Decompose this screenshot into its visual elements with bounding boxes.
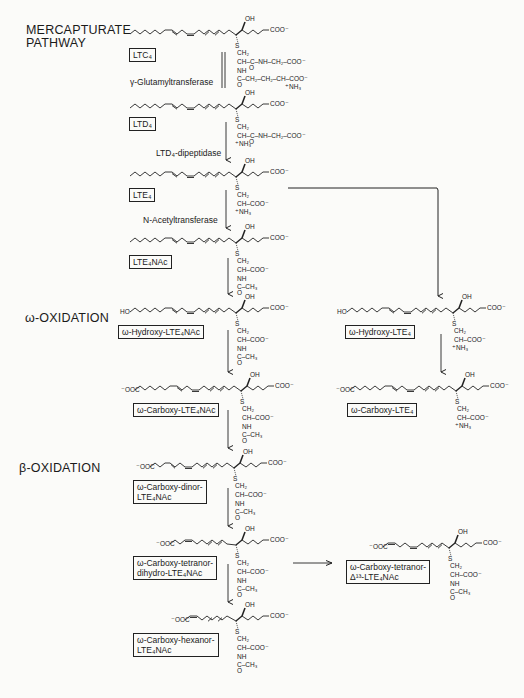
pathway-structures: OH COO⁻ S CH₂ CH–C–NH–CH₂–COO⁻ O NH C–CH…	[0, 0, 524, 698]
svg-text:O: O	[237, 591, 242, 598]
svg-text:CH–COO⁻: CH–COO⁻	[237, 266, 269, 273]
svg-text:S: S	[235, 552, 240, 559]
svg-text:OH: OH	[465, 371, 475, 378]
svg-text:CH–COO⁻: CH–COO⁻	[457, 414, 489, 421]
svg-text:⁻OOC: ⁻OOC	[136, 463, 155, 470]
structure-lte4: OH COO⁻ S CH₂ CH–COO⁻ ⁺NH₃	[130, 157, 289, 215]
svg-text:S: S	[235, 628, 240, 635]
svg-text:O: O	[237, 81, 242, 88]
svg-text:CH₂: CH₂	[454, 327, 466, 334]
svg-text:O: O	[237, 667, 242, 674]
svg-text:⁺NH₃: ⁺NH₃	[285, 83, 301, 90]
svg-text:O: O	[235, 514, 240, 521]
svg-text:CH–COO⁻: CH–COO⁻	[454, 336, 486, 343]
svg-text:CH–COO⁻: CH–COO⁻	[237, 336, 269, 343]
svg-text:S: S	[235, 250, 240, 257]
svg-text:CH–C–NH–CH₂–COO⁻: CH–C–NH–CH₂–COO⁻	[237, 58, 306, 65]
svg-text:CH₂: CH₂	[237, 327, 249, 334]
svg-text:S: S	[235, 42, 240, 49]
svg-text:⁻OOC: ⁻OOC	[156, 540, 175, 547]
svg-text:CH₂: CH₂	[237, 559, 249, 566]
svg-text:CH₂: CH₂	[457, 405, 469, 412]
svg-text:CH₂: CH₂	[235, 482, 247, 489]
svg-text:COO⁻: COO⁻	[268, 459, 287, 466]
structure-omega-hydroxy-lte4: HO OH COO⁻ S CH₂ CH–COO⁻ ⁺NH₃	[337, 293, 506, 351]
svg-text:S: S	[240, 398, 245, 405]
svg-text:⁻OOC: ⁻OOC	[336, 386, 355, 393]
svg-text:⁺NH₃: ⁺NH₃	[235, 208, 251, 215]
svg-text:CH₂: CH₂	[242, 405, 254, 412]
structure-omega-carboxy-dinor-lte4nac: ⁻OOC OH COO⁻ S CH₂ CH–COO⁻ NH C–CH₃ O	[136, 448, 287, 521]
svg-text:CH–C–NH–CH₂–COO⁻: CH–C–NH–CH₂–COO⁻	[237, 132, 306, 139]
svg-text:HO: HO	[337, 308, 347, 315]
svg-text:S: S	[235, 320, 240, 327]
svg-text:⁻OOC: ⁻OOC	[171, 616, 190, 623]
svg-text:CH–COO⁻: CH–COO⁻	[450, 571, 482, 578]
svg-text:OH: OH	[245, 223, 255, 230]
svg-text:COO⁻: COO⁻	[490, 382, 509, 389]
svg-text:S: S	[235, 184, 240, 191]
svg-text:CH₂: CH₂	[450, 562, 462, 569]
svg-text:O: O	[237, 359, 242, 366]
svg-text:CH₂: CH₂	[237, 123, 249, 130]
svg-text:OH: OH	[245, 525, 255, 532]
svg-text:HO: HO	[120, 308, 130, 315]
svg-text:S: S	[455, 398, 460, 405]
svg-text:OH: OH	[243, 448, 253, 455]
structure-omega-hydroxy-lte4nac: HO OH COO⁻ S CH₂ CH–COO⁻ NH C–CH₃ O	[120, 293, 289, 366]
svg-text:CH₂: CH₂	[237, 49, 249, 56]
svg-text:O: O	[450, 594, 455, 601]
svg-text:⁺NH₃: ⁺NH₃	[452, 344, 468, 351]
svg-text:CH₂: CH₂	[237, 257, 249, 264]
svg-text:OH: OH	[458, 528, 468, 535]
svg-text:O: O	[237, 289, 242, 296]
svg-text:OH: OH	[245, 157, 255, 164]
svg-text:OH: OH	[462, 293, 472, 300]
structure-ltd4: OH COO⁻ S CH₂ CH–C–NH–CH₂–COO⁻ O ⁺NH₃	[130, 89, 306, 147]
svg-text:COO⁻: COO⁻	[487, 304, 506, 311]
svg-text:COO⁻: COO⁻	[270, 168, 289, 175]
svg-text:O: O	[249, 64, 254, 71]
svg-text:S: S	[233, 475, 238, 482]
svg-text:COO⁻: COO⁻	[270, 100, 289, 107]
structure-ltc4: OH COO⁻ S CH₂ CH–C–NH–CH₂–COO⁻ O NH C–CH…	[130, 15, 308, 90]
svg-text:NH: NH	[235, 500, 245, 507]
svg-text:NH: NH	[450, 580, 460, 587]
svg-text:COO⁻: COO⁻	[270, 536, 289, 543]
structure-lte4nac: OH COO⁻ S CH₂ CH–COO⁻ NH C–CH₃ O	[130, 223, 289, 296]
svg-text:S: S	[235, 116, 240, 123]
svg-text:CH–COO⁻: CH–COO⁻	[237, 644, 269, 651]
svg-text:CH–COO⁻: CH–COO⁻	[237, 200, 269, 207]
svg-text:OH: OH	[250, 371, 260, 378]
svg-text:O: O	[242, 437, 247, 444]
svg-text:⁻OOC: ⁻OOC	[369, 543, 388, 550]
svg-text:OH: OH	[245, 601, 255, 608]
structure-omega-carboxy-hexanor-lte4nac: ⁻OOC OH COO⁻ S CH₂ CH–COO⁻ NH C–CH₃ O	[171, 601, 289, 674]
svg-text:C–CH₂–CH₂–CH–COO⁻: C–CH₂–CH₂–CH–COO⁻	[237, 75, 308, 82]
structure-omega-carboxy-lte4: ⁻OOC OH COO⁻ S CH₂ CH–COO⁻ ⁺NH₃	[336, 371, 509, 429]
svg-text:OH: OH	[245, 293, 255, 300]
structure-omega-carboxy-tetranor-dihydro-lte4nac: ⁻OOC OH COO⁻ S CH₂ CH–COO⁻ NH C–CH₃ O	[156, 525, 289, 598]
svg-text:CH₂: CH₂	[237, 191, 249, 198]
svg-text:COO⁻: COO⁻	[270, 234, 289, 241]
svg-text:⁻OOC: ⁻OOC	[121, 386, 140, 393]
svg-text:⁺NH₃: ⁺NH₃	[235, 140, 251, 147]
svg-text:CH₂: CH₂	[237, 635, 249, 642]
svg-text:NH: NH	[237, 653, 247, 660]
svg-text:CH–COO⁻: CH–COO⁻	[235, 491, 267, 498]
svg-text:CH–COO⁻: CH–COO⁻	[242, 414, 274, 421]
svg-text:S: S	[452, 320, 457, 327]
svg-text:⁺NH₃: ⁺NH₃	[455, 422, 471, 429]
svg-text:NH: NH	[237, 275, 247, 282]
svg-text:COO⁻: COO⁻	[483, 539, 502, 546]
svg-text:COO⁻: COO⁻	[270, 612, 289, 619]
structure-omega-carboxy-lte4nac: ⁻OOC OH COO⁻ S CH₂ CH–COO⁻ NH C–CH₃ O	[121, 371, 294, 444]
svg-text:NH: NH	[237, 577, 247, 584]
svg-text:NH: NH	[237, 345, 247, 352]
svg-text:OH: OH	[245, 15, 255, 22]
svg-text:CH–COO⁻: CH–COO⁻	[237, 568, 269, 575]
svg-text:S: S	[448, 555, 453, 562]
svg-text:COO⁻: COO⁻	[275, 382, 294, 389]
structure-omega-carboxy-tetranor-d13-lte4nac: ⁻OOC OH COO⁻ S CH₂ CH–COO⁻ NH C–CH₃ O	[369, 528, 502, 601]
svg-text:COO⁻: COO⁻	[270, 304, 289, 311]
